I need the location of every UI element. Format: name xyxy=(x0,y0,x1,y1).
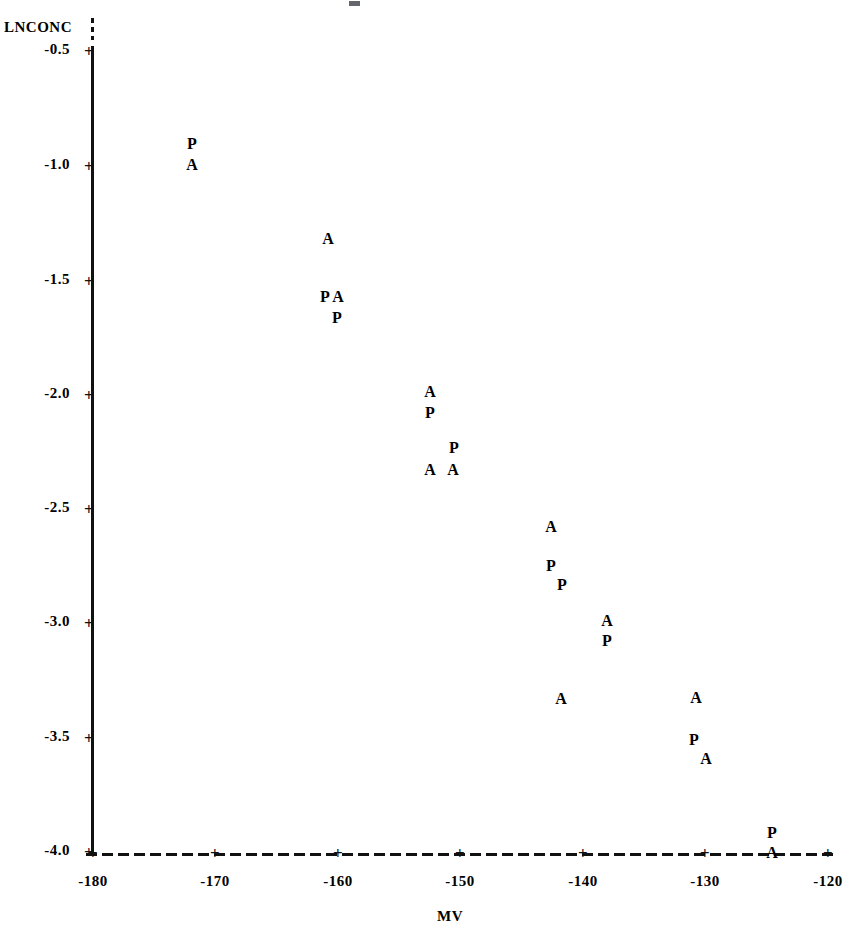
x-tick-mark: + xyxy=(823,845,833,862)
scan-artifact xyxy=(349,1,360,6)
x-tick-label: -170 xyxy=(185,874,245,889)
y-tick-label: -1.5 xyxy=(8,272,70,287)
data-point-marker-p: P xyxy=(688,732,700,748)
x-tick-mark: + xyxy=(333,845,343,862)
y-axis-dashed-stub xyxy=(91,18,94,40)
x-tick-label: -160 xyxy=(308,874,368,889)
x-axis-title: MV xyxy=(437,909,463,924)
data-point-marker-p: P xyxy=(766,825,778,841)
data-point-marker-a: A xyxy=(332,289,344,305)
data-point-marker-a: A xyxy=(700,751,712,767)
y-tick-label: -3.5 xyxy=(8,729,70,744)
y-tick-label: -2.0 xyxy=(8,386,70,401)
x-tick-mark: + xyxy=(578,845,588,862)
y-tick-mark: + xyxy=(84,273,94,290)
y-tick-label: -2.5 xyxy=(8,500,70,515)
y-tick-mark: + xyxy=(84,43,94,60)
x-tick-label: -180 xyxy=(63,874,123,889)
data-point-marker-p: P xyxy=(448,440,460,456)
data-point-marker-p: P xyxy=(556,577,568,593)
scatter-plot-figure: LNCONC -0.5+-1.0+-1.5+-2.0+-2.5+-3.0+-3.… xyxy=(0,0,844,942)
data-point-marker-p: P xyxy=(424,405,436,421)
y-tick-mark: + xyxy=(84,501,94,518)
data-point-marker-a: A xyxy=(690,690,702,706)
data-point-marker-a: A xyxy=(766,845,778,861)
y-tick-label: -4.0 xyxy=(8,843,70,858)
y-tick-mark: + xyxy=(84,730,94,747)
data-point-marker-p: P xyxy=(186,136,198,152)
y-axis-title: LNCONC xyxy=(4,20,72,35)
data-point-marker-p: P xyxy=(601,633,613,649)
y-tick-label: -3.0 xyxy=(8,614,70,629)
x-tick-label: -130 xyxy=(675,874,735,889)
data-point-marker-a: A xyxy=(186,157,198,173)
x-tick-label: -120 xyxy=(798,874,844,889)
x-tick-mark: + xyxy=(455,845,465,862)
x-tick-mark: + xyxy=(210,845,220,862)
data-point-marker-p: P xyxy=(545,558,557,574)
y-tick-mark: + xyxy=(84,615,94,632)
y-tick-mark: + xyxy=(84,387,94,404)
y-tick-mark: + xyxy=(84,158,94,175)
x-tick-mark: + xyxy=(88,845,98,862)
data-point-marker-p: P xyxy=(331,310,343,326)
data-point-marker-a: A xyxy=(555,691,567,707)
data-point-marker-a: A xyxy=(322,231,334,247)
x-tick-label: -140 xyxy=(553,874,613,889)
data-point-marker-a: A xyxy=(545,519,557,535)
data-point-marker-a: A xyxy=(601,613,613,629)
y-tick-label: -0.5 xyxy=(8,42,70,57)
x-tick-mark: + xyxy=(700,845,710,862)
data-point-marker-p: P xyxy=(319,289,331,305)
data-point-marker-a: A xyxy=(447,462,459,478)
y-tick-label: -1.0 xyxy=(8,157,70,172)
data-point-marker-a: A xyxy=(424,462,436,478)
x-tick-label: -150 xyxy=(430,874,490,889)
data-point-marker-a: A xyxy=(424,384,436,400)
